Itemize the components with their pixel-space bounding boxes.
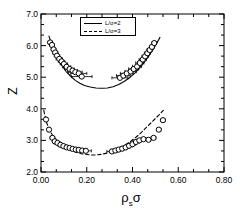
x-tick-label: 0.80 [210,175,238,185]
legend-entry-dashed: L/σ=3 [84,28,132,35]
y-tick-label: 3.0 [14,135,38,145]
data-point-marker [79,74,84,79]
legend-label-solid: L/σ=2 [105,20,121,27]
y-tick-label: 2.0 [14,167,38,177]
x-tick-label: 0.40 [119,175,147,185]
data-point-marker [43,117,48,122]
data-point-marker [152,40,157,45]
data-point-marker [156,127,161,132]
legend-box: L/σ=2 L/σ=3 [80,17,136,36]
data-point-marker [83,148,88,153]
legend-entry-solid: L/σ=2 [84,20,132,27]
x-tick-label: 0.60 [164,175,192,185]
y-tick-label: 4.0 [14,104,38,114]
legend-swatch-solid-line [84,23,102,24]
figure-container: 0.000.200.400.600.802.03.04.05.06.07.0 Z… [0,0,248,215]
legend-label-dashed: L/σ=3 [105,28,121,35]
data-point-marker [46,127,51,132]
x-tick-label: 0.20 [73,175,101,185]
y-tick-label: 7.0 [14,9,38,19]
x-axis-label-rho: ρ [121,190,128,205]
x-axis-label-sigma: σ [133,190,141,205]
data-point-marker [160,118,165,123]
data-point-marker [146,137,151,142]
data-point-marker [141,137,146,142]
x-axis-label: ρsσ [96,190,166,208]
data-point-marker [151,135,156,140]
y-axis-label: Z [6,80,20,102]
y-tick-label: 6.0 [14,41,38,51]
data-points [43,40,165,154]
legend-swatch-dashed-line [84,31,102,32]
